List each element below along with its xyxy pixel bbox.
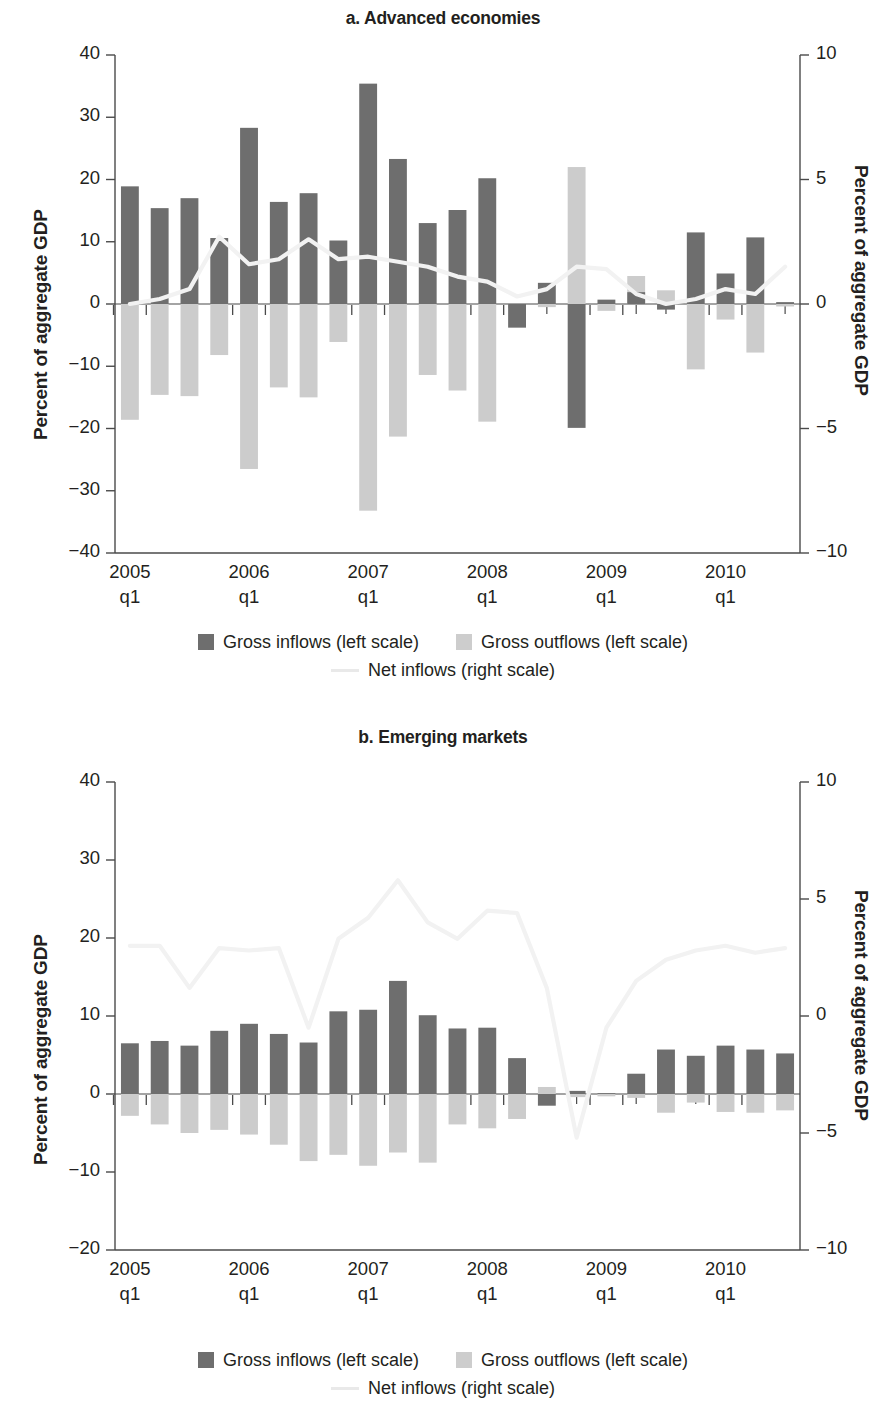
left-tick-label: 10	[20, 1003, 100, 1025]
bar-gross-inflows	[717, 1046, 735, 1094]
bar-gross-outflows	[538, 1087, 556, 1094]
bar-gross-inflows	[329, 1011, 347, 1094]
left-tick-label: 40	[20, 42, 100, 64]
right-tick-label: −5	[816, 1120, 886, 1142]
bar-gross-outflows	[478, 1094, 496, 1128]
bar-gross-inflows	[687, 232, 705, 304]
bar-gross-outflows	[359, 304, 377, 511]
x-axis-quarter: q1	[556, 1282, 656, 1307]
x-axis-quarter: q1	[437, 1282, 537, 1307]
x-axis-tick-label: 2006q1	[199, 1257, 299, 1307]
outflows-swatch-icon	[456, 634, 472, 650]
legend-item-gross-outflows: Gross outflows (left scale)	[456, 1347, 688, 1374]
left-tick-label: 10	[20, 229, 100, 251]
inflows-swatch-icon	[198, 634, 214, 650]
bar-gross-inflows	[270, 1034, 288, 1094]
bar-gross-outflows	[210, 1094, 228, 1130]
x-axis-year: 2008	[467, 1258, 508, 1279]
left-tick-label: 0	[20, 1081, 100, 1103]
left-tick-label: 20	[20, 167, 100, 189]
legend-item-gross-inflows: Gross inflows (left scale)	[198, 1347, 419, 1374]
bar-gross-inflows	[359, 84, 377, 304]
bar-gross-outflows	[746, 304, 764, 353]
bar-gross-inflows	[300, 1043, 318, 1094]
panel-b-plot-area	[0, 700, 886, 1425]
x-axis-tick-label: 2006q1	[199, 560, 299, 610]
legend-item-gross-inflows: Gross inflows (left scale)	[198, 629, 419, 656]
right-tick-label: 10	[816, 42, 886, 64]
right-tick-label: −10	[816, 1237, 886, 1259]
bar-gross-inflows	[776, 1053, 794, 1094]
bar-gross-outflows	[389, 1094, 407, 1153]
axes	[106, 782, 809, 1250]
right-tick-label: −5	[816, 416, 886, 438]
bar-gross-inflows	[597, 1093, 615, 1094]
netline-swatch-icon	[331, 1387, 359, 1390]
x-axis-tick-label: 2005q1	[80, 1257, 180, 1307]
bar-gross-outflows	[597, 304, 615, 311]
bar-gross-inflows	[389, 159, 407, 304]
bar-gross-inflows	[151, 208, 169, 304]
bar-gross-inflows	[568, 304, 586, 428]
legend-label-net-inflows: Net inflows (right scale)	[368, 660, 555, 680]
legend-label-gross-outflows: Gross outflows (left scale)	[481, 1350, 688, 1370]
bar-gross-outflows	[419, 1094, 437, 1163]
x-axis-tick-label: 2009q1	[556, 1257, 656, 1307]
panel-a-legend-row-2: Net inflows (right scale)	[0, 656, 886, 684]
bar-gross-inflows	[538, 1094, 556, 1106]
legend-label-gross-outflows: Gross outflows (left scale)	[481, 632, 688, 652]
bar-gross-inflows	[449, 210, 467, 304]
bar-gross-outflows	[181, 304, 199, 396]
x-axis-tick-label: 2005q1	[80, 560, 180, 610]
x-axis-year: 2009	[586, 561, 627, 582]
bar-gross-outflows	[538, 304, 556, 307]
x-axis-quarter: q1	[80, 585, 180, 610]
panel-b-legend-row-1: Gross inflows (left scale) Gross outflow…	[0, 1346, 886, 1374]
bar-gross-inflows	[478, 1028, 496, 1094]
x-axis-year: 2009	[586, 1258, 627, 1279]
x-axis-quarter: q1	[676, 1282, 776, 1307]
bar-gross-inflows	[240, 128, 258, 304]
legend-item-gross-outflows: Gross outflows (left scale)	[456, 629, 688, 656]
right-tick-label: −10	[816, 540, 886, 562]
panel-a-legend: Gross inflows (left scale) Gross outflow…	[0, 628, 886, 684]
left-tick-label: 30	[20, 847, 100, 869]
outflows-swatch-icon	[456, 1352, 472, 1368]
bar-gross-outflows	[300, 1094, 318, 1161]
x-axis-quarter: q1	[676, 585, 776, 610]
x-axis-tick-label: 2008q1	[437, 560, 537, 610]
x-axis-quarter: q1	[437, 585, 537, 610]
bar-gross-inflows	[627, 1074, 645, 1094]
bar-gross-inflows	[597, 300, 615, 304]
bar-gross-inflows	[121, 1043, 139, 1094]
bar-gross-inflows	[121, 186, 139, 304]
bar-gross-outflows	[151, 304, 169, 395]
panel-b-legend-row-2: Net inflows (right scale)	[0, 1374, 886, 1402]
bar-gross-outflows	[627, 1094, 645, 1098]
bar-gross-outflows	[329, 1094, 347, 1155]
bar-gross-inflows	[389, 981, 407, 1094]
bar-gross-outflows	[240, 304, 258, 469]
x-axis-year: 2005	[109, 1258, 150, 1279]
left-tick-label: −40	[20, 540, 100, 562]
legend-label-net-inflows: Net inflows (right scale)	[368, 1378, 555, 1398]
bar-gross-outflows	[746, 1094, 764, 1113]
bar-gross-outflows	[776, 1094, 794, 1110]
bar-gross-inflows	[210, 1031, 228, 1094]
bar-gross-inflows	[687, 1056, 705, 1094]
bar-gross-inflows	[359, 1010, 377, 1094]
bar-gross-outflows	[389, 304, 407, 437]
bar-gross-outflows	[478, 304, 496, 422]
x-axis-tick-label: 2010q1	[676, 1257, 776, 1307]
x-axis-year: 2010	[705, 561, 746, 582]
bar-gross-inflows	[508, 304, 526, 328]
left-tick-label: −30	[20, 478, 100, 500]
right-tick-label: 10	[816, 769, 886, 791]
bar-gross-outflows	[597, 1094, 615, 1096]
x-axis-tick-label: 2009q1	[556, 560, 656, 610]
bar-gross-outflows	[270, 1094, 288, 1145]
bar-gross-inflows	[329, 241, 347, 304]
legend-label-gross-inflows: Gross inflows (left scale)	[223, 1350, 419, 1370]
bar-gross-outflows	[449, 1094, 467, 1124]
netline-swatch-icon	[331, 669, 359, 672]
